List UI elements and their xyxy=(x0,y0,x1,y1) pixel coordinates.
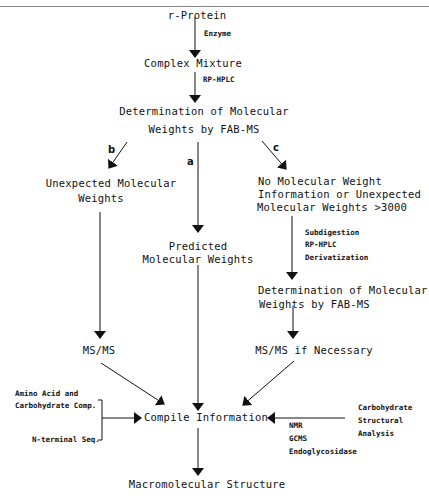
node-no-mw-line3: Molecular Weights >3000 xyxy=(257,201,407,214)
node-complex-mixture: Complex Mixture xyxy=(144,57,242,70)
node-determination-line1: Determination of Molecular xyxy=(119,105,289,118)
node-compile-information: Compile Information xyxy=(144,411,268,424)
branch-label-a: a xyxy=(187,156,194,167)
branch-label-c: c xyxy=(273,142,279,153)
edge-label-subdigestion: Subdigestion xyxy=(305,227,359,239)
node-no-mw-line2: Information or Unexpected xyxy=(258,188,421,201)
node-determination2-line1: Determination of Molecular xyxy=(258,284,428,297)
node-msms-if-necessary: MS/MS if Necessary xyxy=(255,344,372,357)
node-determination2-line2: Weights by FAB-MS xyxy=(259,298,370,311)
branch-label-b: b xyxy=(108,144,115,155)
node-r-protein: r-Protein xyxy=(168,9,227,22)
side-input-right-line2: Structural xyxy=(358,415,403,427)
node-macromolecular-structure: Macromolecular Structure xyxy=(129,478,286,491)
node-msms: MS/MS xyxy=(83,344,116,357)
side-input-left-line1: Amino Acid and xyxy=(15,388,78,400)
method-endoglycosidase: Endoglycosidase xyxy=(289,446,357,458)
edge-label-enzyme: Enzyme xyxy=(204,28,231,40)
side-input-right-line3: Analysis xyxy=(358,428,394,440)
node-unexpected-line1: Unexpected Molecular xyxy=(46,177,176,190)
node-predicted-line2: Molecular Weights xyxy=(143,253,254,266)
edge-label-rp-hplc: RP-HPLC xyxy=(203,74,235,86)
edge-label-derivatization: Derivatization xyxy=(305,252,368,264)
node-predicted-line1: Predicted xyxy=(169,240,228,253)
edge-label-rp-hplc-2: RP-HPLC xyxy=(305,239,337,251)
side-input-left-line2: Carbohydrate Comp. xyxy=(15,400,96,412)
node-unexpected-line2: Weights xyxy=(78,192,124,205)
method-nmr: NMR xyxy=(289,420,303,432)
method-gcms: GCMS xyxy=(289,433,307,445)
node-no-mw-line1: No Molecular Weight xyxy=(258,175,382,188)
side-input-left-line3: N-terminal Seq. xyxy=(32,434,100,446)
side-input-right-line1: Carbohydrate xyxy=(358,402,412,414)
node-determination-line2: Weights by FAB-MS xyxy=(149,123,260,136)
